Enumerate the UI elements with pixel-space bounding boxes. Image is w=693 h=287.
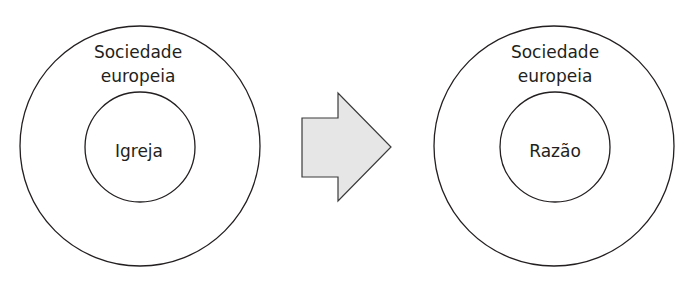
right-arrow-icon [302, 93, 391, 201]
diagram-canvas: Sociedade europeia Igreja Sociedade euro… [0, 0, 693, 287]
right-outer-label-line2: europeia [518, 66, 593, 86]
left-inner-label: Igreja [115, 141, 163, 161]
right-inner-label: Razão [529, 141, 581, 161]
right-circle-group: Sociedade europeia Razão [434, 26, 674, 266]
left-circle-group: Sociedade europeia Igreja [20, 26, 260, 266]
left-outer-label-line1: Sociedade [94, 42, 182, 62]
left-outer-label-line2: europeia [101, 66, 176, 86]
right-outer-label-line1: Sociedade [511, 42, 599, 62]
